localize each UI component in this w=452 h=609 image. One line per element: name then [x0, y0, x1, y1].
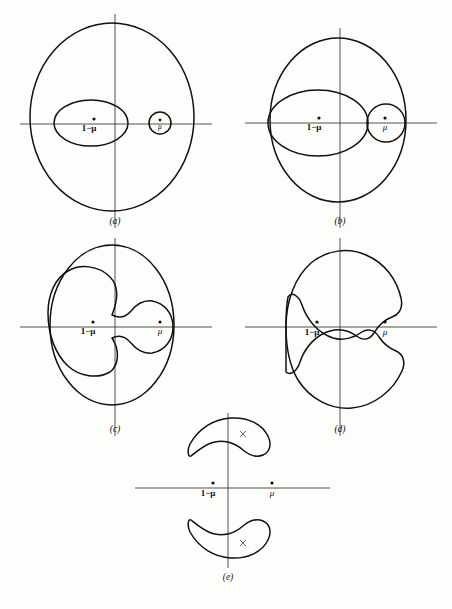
panel-a-secondary-label: μ [158, 122, 162, 131]
panel-e-primary-label: 1−μ [201, 488, 216, 498]
panel-d-primary-label: 1−μ [305, 327, 320, 337]
panel-e-cross-L5 [240, 540, 246, 546]
panel-c-caption: (c) [110, 424, 121, 435]
panel-e: 1−μ μ (e) [135, 413, 330, 583]
panel-d-outer-crescent [286, 251, 402, 374]
panel-d-secondary-dot [383, 320, 386, 323]
panel-e-lower-banana [188, 520, 270, 558]
panel-b-primary-label: 1−μ [307, 122, 322, 132]
panel-b: 1−μ μ (b) [245, 28, 437, 228]
panel-d-caption: (d) [334, 424, 345, 435]
panel-c-primary-label: 1−μ [81, 326, 96, 336]
panel-a-primary-label: 1−μ [82, 123, 97, 133]
panel-c-secondary-label: μ [157, 326, 163, 336]
panel-e-caption: (e) [223, 572, 234, 583]
panel-b-primary-dot [317, 116, 320, 119]
panel-c-secondary-dot [158, 320, 161, 323]
panel-e-upper-banana [188, 418, 270, 456]
panel-d-primary-dot [315, 320, 318, 323]
panel-c: 1−μ μ (c) [20, 238, 212, 436]
panel-c-outer-oval [50, 245, 174, 405]
panel-e-secondary-dot [270, 481, 273, 484]
panel-e-cross-L4 [240, 431, 246, 437]
panel-b-secondary-dot [383, 116, 386, 119]
panel-e-secondary-label: μ [269, 488, 275, 498]
panel-a-secondary-dot [159, 119, 162, 122]
panel-d-inner-crescent [286, 294, 404, 408]
panel-b-caption: (b) [334, 216, 345, 227]
panel-d: 1−μ μ (d) [245, 238, 437, 436]
panel-a: 1−μ μ (a) [20, 14, 212, 228]
panel-c-peanut-contour [48, 267, 173, 376]
panel-a-caption: (a) [109, 216, 120, 227]
panel-c-primary-dot [91, 320, 94, 323]
panel-e-primary-dot [211, 481, 214, 484]
panel-b-outer-oval [270, 38, 406, 202]
panel-a-primary-dot [92, 117, 95, 120]
hill-curves-figure: 1−μ μ (a) 1−μ μ (b) 1−μ μ (c) [0, 0, 452, 609]
panel-d-secondary-label: μ [382, 327, 388, 337]
panel-b-secondary-label: μ [382, 122, 388, 132]
